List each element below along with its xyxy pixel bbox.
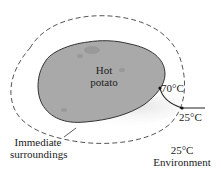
surroundings-label-line1: Immediate <box>10 136 66 148</box>
object-label-line2: potato <box>84 76 124 88</box>
potato-spot <box>77 54 83 58</box>
environment-name: Environment <box>152 156 212 168</box>
surroundings-label-line2: surroundings <box>10 148 66 160</box>
object-label: Hot potato <box>84 64 124 88</box>
environment-label: 25°C Environment <box>152 144 212 168</box>
surroundings-label: Immediate surroundings <box>10 136 66 160</box>
environment-temp: 25°C <box>152 144 212 156</box>
surface-temp-label: 70°C <box>161 82 184 94</box>
object-label-line1: Hot <box>84 64 124 76</box>
boundary-point <box>180 106 183 109</box>
potato-spot <box>61 108 67 112</box>
potato-spot <box>84 46 100 54</box>
boundary-temp-label: 25°C <box>179 111 202 123</box>
